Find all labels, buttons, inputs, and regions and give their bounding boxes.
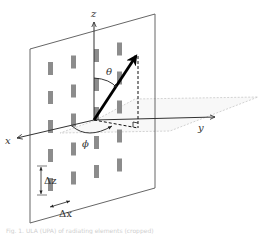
array-element — [48, 91, 53, 104]
array-element — [117, 130, 122, 143]
dx-dimension — [50, 201, 70, 207]
dz-label: Δz — [44, 175, 57, 186]
array-element — [94, 78, 99, 91]
figure-caption: Fig. 1. ULA (UPA) of radiating elements … — [6, 227, 154, 234]
x-axis-label: x — [5, 135, 11, 146]
array-element — [71, 56, 76, 69]
antenna-array-diagram: z x y θ ϕ Δz Δx Fig. 1. ULA (UPA) of rad… — [0, 0, 269, 234]
xy-plane — [60, 97, 258, 133]
array-element — [48, 62, 53, 75]
array-element — [48, 149, 53, 162]
array-element — [94, 165, 99, 178]
y-axis-label: y — [197, 122, 204, 133]
theta-label: θ — [106, 66, 112, 77]
array-element — [117, 43, 122, 56]
array-element — [117, 101, 122, 114]
array-element — [94, 136, 99, 149]
array-element — [117, 159, 122, 172]
array-element — [71, 85, 76, 98]
array-element — [71, 143, 76, 156]
array-element — [71, 172, 76, 185]
array-element — [94, 49, 99, 62]
z-axis-label: z — [90, 8, 97, 19]
dx-label: Δx — [59, 208, 72, 219]
phi-label: ϕ — [82, 138, 89, 149]
